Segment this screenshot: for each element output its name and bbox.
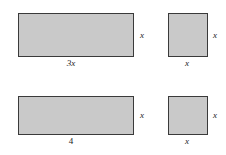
tile-top-right-bottom-label: x: [185, 59, 189, 68]
tile-top-right-side-label: x: [213, 31, 217, 40]
tile-wide-rectangle-3x-by-x: [18, 13, 134, 57]
tile-bottom-left-side-label: x: [140, 111, 144, 120]
tile-top-left-bottom-label: 3x: [67, 59, 76, 68]
tile-square-x-by-x-top: [168, 13, 208, 57]
tile-square-x-by-x-bottom: [168, 96, 208, 135]
tile-top-left-side-label: x: [140, 31, 144, 40]
tile-bottom-right-side-label: x: [213, 111, 217, 120]
tile-wide-rectangle-4-by-x: [18, 96, 134, 135]
algebra-tiles-figure: x 3x x x x 4 x x: [0, 0, 226, 155]
tile-bottom-right-bottom-label: x: [185, 137, 189, 146]
tile-bottom-left-bottom-label: 4: [69, 137, 74, 146]
